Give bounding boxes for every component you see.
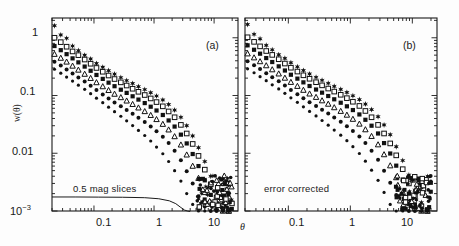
data-point [344,89,349,95]
data-point [319,98,324,103]
data-point [143,120,147,124]
data-point [136,116,140,120]
data-point [223,182,227,186]
data-point [370,169,373,172]
data-point [252,40,257,45]
data-point [307,76,312,81]
y-tick-exponent: −3 [22,203,31,212]
y-tick-label-0.01: 0.01 [12,145,33,157]
data-point [222,173,227,178]
data-point [289,88,293,92]
data-point [167,141,171,145]
data-point [382,131,387,136]
data-point [119,115,122,118]
data-point [58,40,63,45]
panel-b-x-tick-10: 10 [401,216,413,228]
data-point [195,199,199,203]
data-point [314,114,317,117]
data-point [82,71,87,76]
data-point [369,107,374,113]
data-point [167,160,170,163]
data-point [357,104,362,109]
data-point [130,86,135,91]
data-point [184,152,189,157]
data-point [350,93,355,99]
data-point [94,73,98,77]
data-point [425,207,429,211]
data-point [376,179,379,182]
data-point [270,75,274,79]
data-point [77,84,80,87]
data-point [64,59,69,64]
data-point [149,124,153,128]
data-point [282,55,287,61]
data-point [358,152,361,155]
data-point [388,181,392,185]
data-point [191,181,195,185]
data-point [308,110,311,113]
y-tick-label-1e-3: 10−3 [10,203,31,217]
data-point [388,151,392,155]
data-point [184,131,189,136]
data-point [202,159,207,165]
data-point [178,142,183,147]
data-point [376,131,380,135]
data-point [307,91,312,96]
data-point [369,133,374,138]
data-point [191,152,195,156]
data-point [289,73,293,77]
data-point [199,183,203,187]
data-point [326,86,331,91]
data-point [264,42,269,48]
panel-a-x-tick-0.1: 0.1 [96,216,111,228]
data-point [375,114,380,120]
data-point [89,92,92,95]
data-point [125,108,129,112]
data-point [277,87,280,90]
data-point [338,86,343,92]
y-axis-title: w(θ) [12,104,22,122]
data-point [271,83,274,86]
data-point [350,116,355,121]
data-point [76,76,80,80]
figure-canvas: 1 0.1 0.01 10−3 w(θ) 0.1 1 10 0.1 1 10 θ… [0,0,459,246]
data-point [339,120,343,124]
data-point [296,101,299,104]
data-point [83,64,87,68]
data-point [191,203,194,206]
panel-a-error-floor-curve [52,197,190,212]
data-point [376,123,381,128]
data-point [179,179,182,182]
data-point [314,87,318,91]
data-point [136,105,141,110]
data-point [196,154,201,159]
panel-b-tag: (b) [403,39,416,51]
data-point [270,47,275,53]
panel-a-annotation: 0.5 mag slices [73,183,137,194]
data-point [351,145,354,148]
data-point [332,83,337,89]
data-point [258,44,263,49]
data-point [65,75,68,78]
data-point [403,200,407,204]
data-point [52,23,57,29]
data-point [276,57,281,62]
data-point [94,88,98,92]
y-tick-label-1: 1 [32,26,38,38]
data-point [395,209,398,212]
data-point [70,63,75,68]
data-point [332,89,337,94]
data-point [166,109,171,114]
data-point [283,61,288,66]
data-point [88,61,93,66]
data-point [351,129,355,133]
data-point [326,94,330,98]
data-point [229,176,233,180]
data-point [203,209,206,212]
data-point [113,100,117,104]
data-point [382,141,386,145]
data-point [215,208,219,212]
data-point [142,93,147,98]
data-point [136,89,141,94]
data-point [148,96,153,101]
